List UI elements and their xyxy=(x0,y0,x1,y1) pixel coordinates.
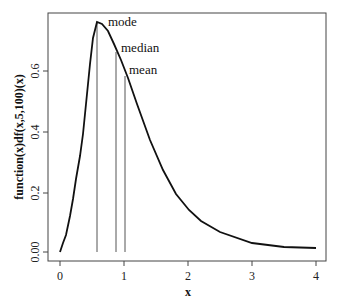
y-tick-label: 0.00 xyxy=(28,242,42,263)
y-tick-label: 0.6 xyxy=(28,64,42,79)
y-tick-label: 0.4 xyxy=(28,125,42,140)
chart-canvas: 0 1 2 3 4 x 0.00 0.2 0.4 0.6 function(x)… xyxy=(0,0,341,308)
x-tick-label: 2 xyxy=(185,269,191,283)
x-tick-label: 0 xyxy=(57,269,63,283)
mean-label: mean xyxy=(129,62,158,77)
x-axis-title: x xyxy=(185,285,191,299)
x-tick-label: 3 xyxy=(249,269,255,283)
x-tick-label: 4 xyxy=(313,269,319,283)
mode-label: mode xyxy=(108,14,137,29)
median-label: median xyxy=(121,40,160,55)
x-axis xyxy=(60,261,316,266)
stat-lines xyxy=(97,22,125,252)
x-tick-label: 1 xyxy=(121,269,127,283)
y-tick-label: 0.2 xyxy=(28,186,42,201)
y-axis xyxy=(43,71,48,252)
y-axis-title: function(x)df(x,5,100)(x) xyxy=(12,74,26,199)
density-curve xyxy=(60,22,316,252)
plot-frame xyxy=(48,13,326,261)
